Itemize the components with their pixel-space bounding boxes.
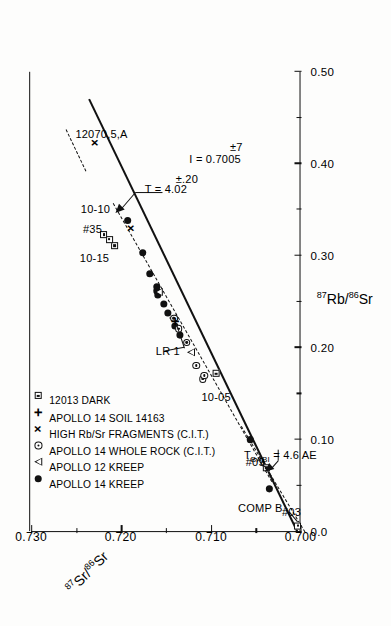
x-tick	[294, 439, 301, 440]
data-point	[146, 270, 153, 277]
x-minor-tick	[296, 393, 301, 394]
x-tick-label: 0.10	[310, 434, 334, 446]
data-point	[212, 370, 219, 377]
legend-label: APOLLO 14 SOIL 14163	[49, 412, 164, 423]
figure-canvas: 0.00.100.200.300.400.50 0.7000.7100.7200…	[0, 0, 391, 626]
data-point	[192, 362, 200, 370]
x-axis-title: 87Rb/86Sr	[316, 290, 372, 307]
data-point	[186, 349, 194, 357]
annotation-label-tbabi: TBABI = 4.6 AE	[244, 449, 317, 464]
y-tick-label: 0.730	[15, 530, 47, 544]
data-point	[200, 372, 208, 380]
legend-symbol-dotted-square-icon	[34, 392, 41, 399]
x-minor-tick	[296, 301, 301, 302]
legend-label: APOLLO 12 KREEP	[49, 462, 144, 473]
legend-symbol-circle-with-dot-icon	[34, 442, 42, 450]
x-tick-label: 0.40	[310, 158, 334, 170]
legend-label: HIGH Rb/Sr FRAGMENTS (C.I.T.)	[49, 429, 209, 440]
data-point	[246, 437, 253, 444]
data-point	[138, 250, 145, 257]
x-minor-tick	[296, 117, 301, 118]
annotation-label-35: #35	[82, 222, 101, 234]
annotation-intercept-error: ±7	[229, 141, 242, 153]
x-tick-label: 0.30	[310, 250, 334, 262]
y-axis-title-text: 87Sr/86Sr	[63, 548, 111, 596]
x-tick-label: 0.50	[310, 66, 334, 78]
legend-symbol-open-triangle-icon	[34, 458, 42, 466]
x-axis-title-text: 87Rb/86Sr	[316, 290, 372, 306]
annotation-intercept-value: I = 0.7005	[189, 153, 241, 165]
legend-label: APOLLO 14 WHOLE ROCK (C.I.T.)	[49, 446, 215, 457]
data-point: ×	[90, 139, 98, 146]
data-point: ×	[126, 225, 134, 232]
y-minor-tick	[76, 528, 77, 533]
annotation-sample-12070: 12070,5,A	[75, 128, 127, 140]
annotation-age-error: ±.20	[175, 173, 197, 185]
x-minor-tick	[296, 209, 301, 210]
x-tick-label: 0.20	[310, 342, 334, 354]
y-tick-label: 0.710	[194, 530, 226, 544]
legend-symbol-filled-circle-icon	[34, 475, 41, 482]
annotation-label-10-05: 10-05	[201, 392, 230, 404]
x-tick	[294, 70, 301, 71]
data-point	[111, 242, 118, 249]
legend-label: 12013 DARK	[49, 396, 110, 407]
data-point	[154, 288, 162, 296]
x-tick	[294, 255, 301, 256]
annotation-label-comp-b: COMP B	[237, 502, 282, 514]
y-axis-title: 87Sr/86Sr	[62, 547, 111, 596]
annotation-label-10-15: 10-15	[79, 252, 108, 264]
plot-stage: 0.00.100.200.300.400.50 0.7000.7100.7200…	[15, 32, 377, 595]
data-point	[160, 300, 167, 307]
data-point	[265, 485, 272, 492]
legend-symbol-plus-icon: +	[34, 408, 42, 417]
y-minor-tick	[255, 528, 256, 533]
y-minor-tick	[165, 528, 166, 533]
data-point	[123, 217, 130, 224]
annotation-label-03: #03	[282, 506, 301, 518]
legend-symbol-cross-x-icon: ×	[34, 425, 42, 432]
annotation-age-value: T = 4.02	[144, 184, 186, 196]
annotation-label-lr1: LR 1	[155, 346, 179, 358]
data-point	[294, 522, 301, 529]
x-minor-tick	[296, 485, 301, 486]
x-tick	[294, 347, 301, 348]
x-tick	[294, 162, 301, 163]
y-tick-label: 0.720	[105, 530, 137, 544]
legend-label: APOLLO 14 KREEP	[49, 479, 144, 490]
y-tick-label: 0.700	[284, 530, 316, 544]
annotation-label-10-10: 10-10	[81, 202, 110, 214]
